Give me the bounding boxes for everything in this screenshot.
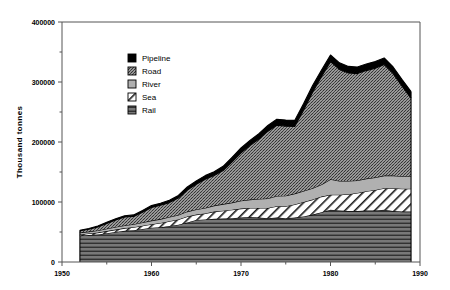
legend-item-river: River — [128, 80, 161, 89]
legend-item-pipeline: Pipeline — [128, 54, 171, 63]
legend-item-rail: Rail — [128, 106, 156, 115]
legend-label: Sea — [142, 93, 157, 102]
y-axis-title: Thousand tonnes — [15, 106, 24, 179]
legend-item-road: Road — [128, 67, 161, 76]
x-tick-label: 1950 — [54, 270, 70, 277]
chart-container: 0100000200000300000400000195019601970198… — [0, 0, 450, 290]
y-tick-label: 300000 — [32, 79, 55, 86]
legend-swatch-road — [128, 67, 136, 75]
y-axis-title-group: Thousand tonnes — [15, 106, 24, 179]
y-tick-label: 200000 — [32, 139, 55, 146]
x-tick-label: 1960 — [144, 270, 160, 277]
x-tick-label: 1980 — [323, 270, 339, 277]
legend-swatch-sea — [128, 93, 136, 101]
legend-swatch-rail — [128, 106, 136, 114]
legend-swatch-river — [128, 80, 136, 88]
legend-label: Rail — [142, 106, 156, 115]
y-tick-label: 100000 — [32, 199, 55, 206]
x-tick-label: 1990 — [412, 270, 428, 277]
legend-item-sea: Sea — [128, 93, 157, 102]
y-tick-label: 400000 — [32, 19, 55, 26]
y-tick-label: 0 — [51, 259, 55, 266]
legend-label: River — [142, 80, 161, 89]
x-tick-label: 1970 — [233, 270, 249, 277]
stacked-area-chart: 0100000200000300000400000195019601970198… — [0, 0, 450, 290]
legend-swatch-pipeline — [128, 54, 136, 62]
legend-label: Road — [142, 67, 161, 76]
legend-label: Pipeline — [142, 54, 171, 63]
